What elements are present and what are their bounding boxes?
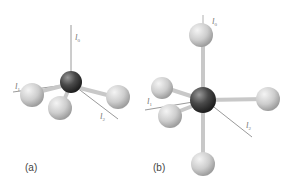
axis-label-l2-b: l2 <box>246 120 252 131</box>
axis-label-l0-b: l0 <box>212 16 218 27</box>
figure-b: l0 l1 l2 <box>145 15 280 176</box>
caption-b: (b) <box>153 162 165 173</box>
ligand-atom <box>256 87 280 111</box>
axis-label-l2-a: l2 <box>100 111 106 122</box>
molecule-diagrams: l0 l1 l2 l0 l1 l2 <box>0 0 295 191</box>
ligand-atom <box>20 83 44 107</box>
axis-label-l1-a: l1 <box>15 81 21 92</box>
ligand-atom <box>151 77 173 99</box>
ligand-atom <box>191 152 215 176</box>
ligand-atom <box>158 104 182 128</box>
ligand-atom <box>106 85 130 109</box>
central-atom <box>60 71 82 93</box>
axis-label-l0-a: l0 <box>75 32 81 43</box>
caption-a: (a) <box>25 162 37 173</box>
central-atom <box>190 87 216 113</box>
figure-a: l0 l1 l2 <box>13 25 130 122</box>
ligand-atom <box>48 96 72 120</box>
axis-label-l1-b: l1 <box>147 96 153 107</box>
ligand-atom <box>189 23 213 47</box>
